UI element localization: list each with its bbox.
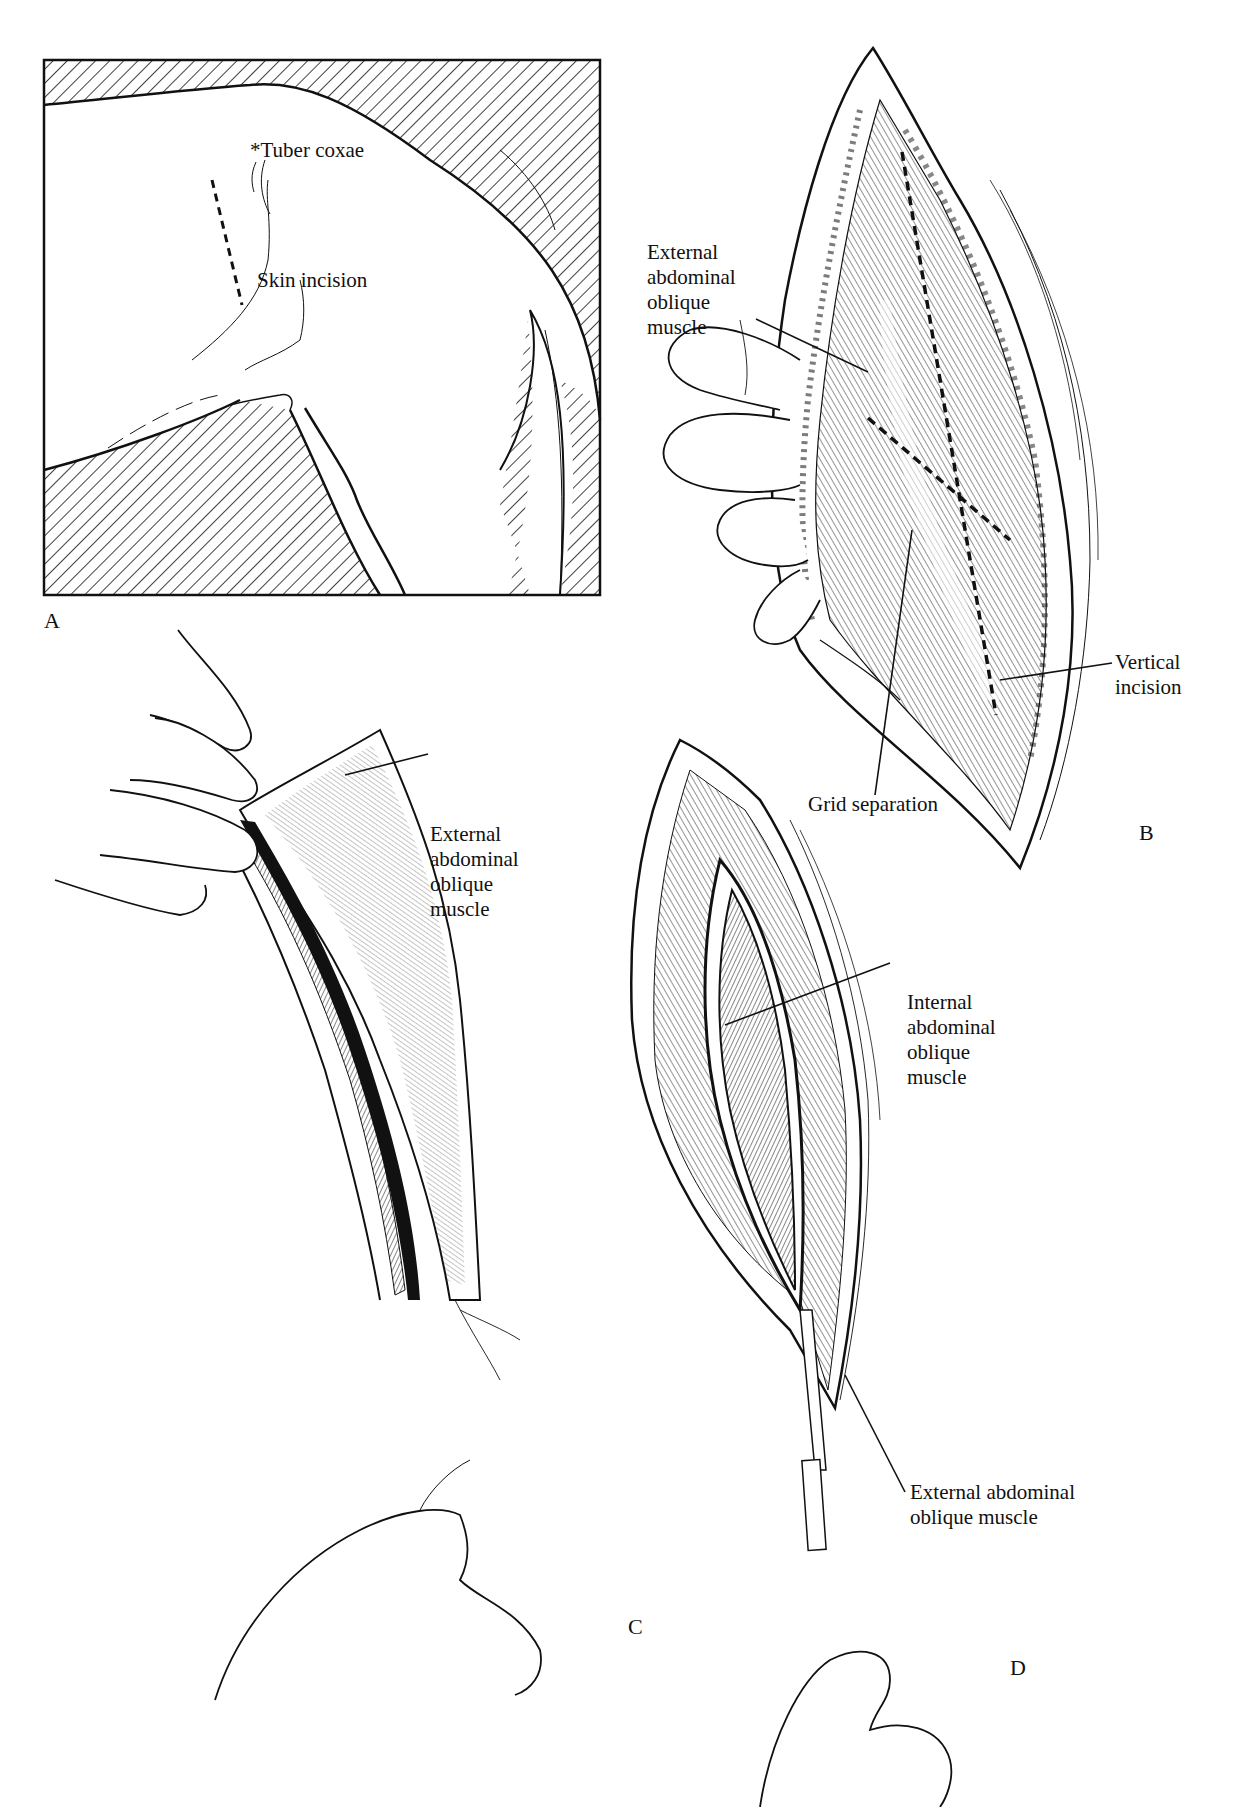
panel-d-drawing — [631, 740, 951, 1807]
panel-letter-b: B — [1139, 820, 1154, 846]
panel-c-drawing — [55, 630, 541, 1700]
panel-letter-c: C — [628, 1614, 643, 1640]
skin-incision-line — [212, 180, 242, 305]
panel-letter-a: A — [44, 608, 60, 634]
label-tuber-coxae: *Tuber coxae — [250, 138, 364, 163]
label-external-oblique-d: External abdominal oblique muscle — [910, 1480, 1075, 1530]
figure-artwork — [0, 0, 1244, 1807]
label-vertical-incision: Vertical incision — [1115, 650, 1182, 700]
label-grid-separation: Grid separation — [808, 792, 938, 817]
panel-letter-d: D — [1010, 1655, 1026, 1681]
label-internal-oblique: Internal abdominal oblique muscle — [907, 990, 996, 1090]
label-external-oblique-c: External abdominal oblique muscle — [430, 822, 519, 922]
panel-b-drawing — [664, 48, 1112, 868]
label-skin-incision: Skin incision — [257, 268, 367, 293]
label-external-oblique-b: External abdominal oblique muscle — [647, 240, 736, 340]
